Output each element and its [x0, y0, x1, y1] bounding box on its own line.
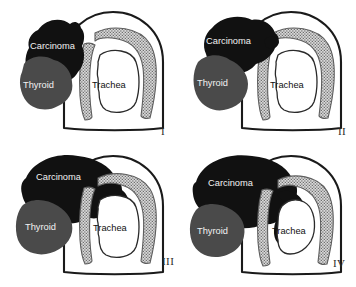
- panel-stage-2: Carcinoma Thyroid Trachea: [178, 0, 356, 143]
- panel-stage-4: Carcinoma Thyroid Trachea: [178, 144, 356, 287]
- label-trachea: Trachea: [272, 226, 307, 236]
- thyroid-carcinoma-figure: Carcinoma Thyroid Trachea I: [0, 0, 356, 287]
- label-trachea: Trachea: [270, 80, 305, 90]
- panel-numeral-3: III: [162, 256, 174, 267]
- label-thyroid: Thyroid: [197, 226, 228, 236]
- label-carcinoma: Carcinoma: [36, 172, 82, 182]
- panel-stage-3: Carcinoma Thyroid Trachea: [0, 144, 178, 287]
- label-carcinoma: Carcinoma: [30, 41, 76, 51]
- panel-numeral-1: I: [161, 126, 165, 137]
- label-carcinoma: Carcinoma: [208, 178, 254, 188]
- label-trachea: Trachea: [93, 223, 128, 233]
- panel-numeral-4: IV: [333, 258, 345, 269]
- label-thyroid: Thyroid: [23, 80, 54, 90]
- panel-stage-1: Carcinoma Thyroid Trachea: [0, 0, 178, 143]
- label-carcinoma: Carcinoma: [206, 36, 252, 46]
- label-thyroid: Thyroid: [197, 78, 228, 88]
- label-thyroid: Thyroid: [25, 222, 56, 232]
- label-trachea: Trachea: [92, 80, 127, 90]
- panel-numeral-2: II: [338, 126, 346, 137]
